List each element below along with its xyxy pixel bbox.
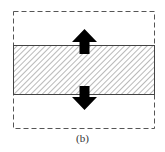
diagram-canvas — [0, 0, 165, 152]
figure-caption: (b) — [0, 132, 165, 144]
diagram-figure: (b) — [0, 0, 165, 152]
